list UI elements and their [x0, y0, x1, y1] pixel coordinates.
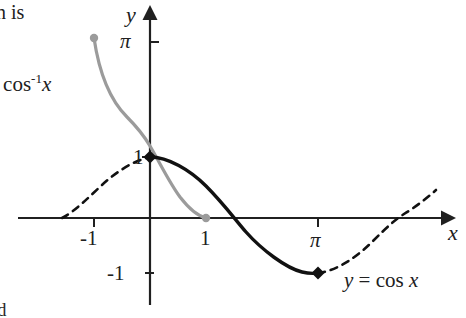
axis-group: [18, 5, 456, 305]
arccos-label-operator: = cos: [0, 72, 31, 96]
cosine-label-variable: x: [409, 268, 418, 292]
arccos-curve-label: = cos-1x: [0, 72, 51, 95]
cosine-endpoint-diamond-right: [312, 267, 325, 280]
cosine-label-prefix: y: [344, 268, 353, 292]
y-tick-label-1: 1: [133, 147, 144, 168]
cosine-principal-curve: [150, 157, 318, 273]
arccos-endpoint-dot-right: [202, 214, 210, 222]
arccos-label-variable: x: [42, 72, 51, 96]
arccos-endpoint-dot-left: [90, 34, 98, 42]
page-text-fragment-bottom: d: [0, 300, 7, 318]
y-axis-arrow-icon: [143, 5, 158, 20]
cosine-label-operator: = cos: [359, 268, 404, 292]
arccos-label-exponent: -1: [31, 71, 42, 86]
x-tick-label-1: 1: [200, 228, 211, 249]
y-tick-label-neg1: -1: [107, 263, 125, 284]
x-axis-label: x: [448, 222, 458, 244]
y-tick-label-pi: π: [120, 31, 131, 52]
cosine-curve-label: y = cos x: [344, 270, 418, 291]
y-axis-label: y: [126, 4, 136, 26]
x-tick-label-neg1: -1: [80, 228, 98, 249]
x-tick-label-pi: π: [310, 230, 321, 251]
figure-canvas: n is d = cos-1x y = cos x y x -1 1 π π 1…: [0, 0, 466, 318]
cosine-extension-right-curve: [318, 190, 436, 273]
page-text-fragment-top: n is: [0, 2, 24, 22]
